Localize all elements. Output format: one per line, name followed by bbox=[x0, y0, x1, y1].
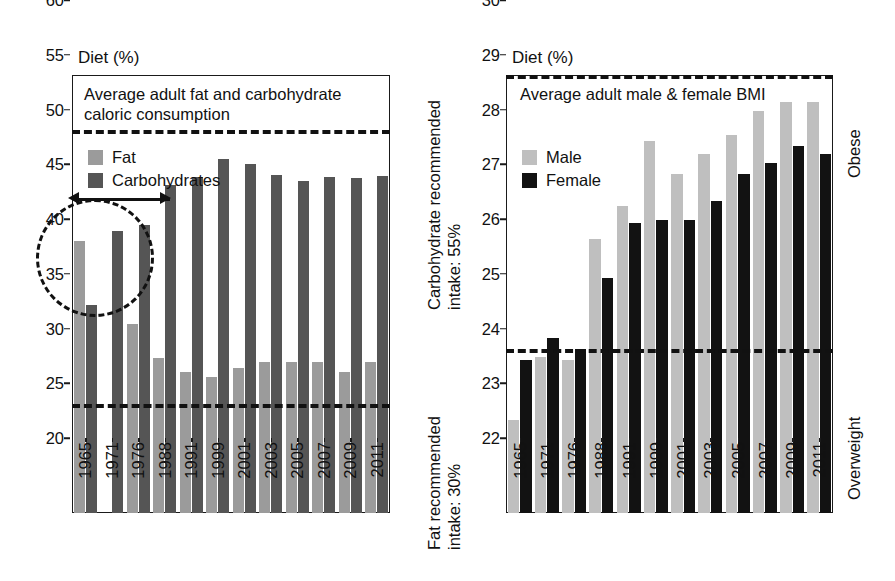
x-tick-mark bbox=[792, 438, 794, 442]
y-tick-mark bbox=[64, 54, 70, 56]
x-tick-label: 1988 bbox=[156, 442, 175, 479]
y-tick-label: 55 bbox=[46, 47, 64, 64]
legend-item-male: Male bbox=[522, 147, 601, 168]
x-tick-label: 1988 bbox=[592, 442, 611, 479]
x-tick-label: 1971 bbox=[538, 442, 557, 479]
y-tick-label: 50 bbox=[46, 101, 64, 118]
legend-item-carbohydrates: Carbohydrates bbox=[88, 170, 220, 191]
x-tick-mark bbox=[765, 438, 767, 442]
x-tick-label: 1971 bbox=[103, 442, 122, 479]
legend-label-carbohydrates: Carbohydrates bbox=[112, 172, 220, 189]
y-tick-label: 22 bbox=[482, 430, 500, 447]
y-tick-mark bbox=[64, 109, 70, 111]
legend-label-male: Male bbox=[546, 149, 582, 166]
x-tick-mark bbox=[218, 438, 220, 442]
x-tick-mark bbox=[191, 438, 193, 442]
x-tick-label: 2005 bbox=[288, 442, 307, 479]
left-axis-caption: Diet (%) bbox=[78, 48, 139, 68]
left-title-line1: Average adult fat and carbohydrate bbox=[84, 85, 341, 103]
two-panel-bar-chart-figure: Diet (%) 202530354045505560 Average adul… bbox=[0, 0, 895, 581]
fat-recommended-intake-label: Fat recommended intake: 30% bbox=[425, 400, 465, 550]
x-tick-label: 1965 bbox=[76, 442, 95, 479]
y-tick-mark bbox=[64, 0, 70, 1]
x-tick-label: 1976 bbox=[565, 442, 584, 479]
x-tick-label: 2007 bbox=[315, 442, 334, 479]
y-tick-label: 25 bbox=[482, 266, 500, 283]
x-tick-mark bbox=[656, 438, 658, 442]
x-tick-label: 2001 bbox=[674, 442, 693, 479]
y-tick-label: 30 bbox=[482, 0, 500, 8]
y-tick-label: 20 bbox=[46, 430, 64, 447]
y-tick-label: 27 bbox=[482, 156, 500, 173]
fat-recommended-refline bbox=[72, 404, 390, 408]
y-tick-label: 25 bbox=[46, 375, 64, 392]
x-tick-mark bbox=[629, 438, 631, 442]
y-tick-label: 26 bbox=[482, 211, 500, 228]
y-tick-mark bbox=[64, 437, 70, 439]
x-tick-mark bbox=[244, 438, 246, 442]
obese-refline bbox=[506, 75, 833, 79]
y-tick-label: 29 bbox=[482, 47, 500, 64]
overweight-refline bbox=[506, 349, 833, 353]
x-tick-mark bbox=[520, 438, 522, 442]
right-axis-caption: Diet (%) bbox=[512, 48, 573, 68]
span-arrow-head-left bbox=[68, 192, 79, 204]
x-tick-mark bbox=[574, 438, 576, 442]
x-tick-mark bbox=[547, 438, 549, 442]
x-tick-mark bbox=[738, 438, 740, 442]
left-legend: Fat Carbohydrates bbox=[88, 147, 220, 193]
right-x-axis-labels: 1965197119761988199119992001200320052007… bbox=[506, 442, 833, 512]
x-tick-mark bbox=[271, 438, 273, 442]
carb-recommended-refline bbox=[72, 130, 390, 134]
x-tick-mark bbox=[324, 438, 326, 442]
x-tick-label: 1965 bbox=[511, 442, 530, 479]
male-color-swatch bbox=[522, 150, 537, 165]
x-tick-label: 1999 bbox=[647, 442, 666, 479]
x-tick-label: 2005 bbox=[729, 442, 748, 479]
y-tick-label: 23 bbox=[482, 375, 500, 392]
x-tick-mark bbox=[112, 438, 114, 442]
x-tick-label: 2011 bbox=[368, 442, 387, 477]
x-tick-mark bbox=[165, 438, 167, 442]
x-tick-label: 2003 bbox=[701, 442, 720, 479]
left-title-line2: caloric consumption bbox=[84, 105, 230, 123]
y-tick-label: 45 bbox=[46, 156, 64, 173]
x-tick-mark bbox=[350, 438, 352, 442]
legend-item-fat: Fat bbox=[88, 147, 220, 168]
y-tick-mark bbox=[500, 54, 506, 56]
x-tick-mark bbox=[377, 438, 379, 442]
x-tick-mark bbox=[710, 438, 712, 442]
y-tick-mark bbox=[64, 328, 70, 330]
x-tick-label: 2009 bbox=[341, 442, 360, 479]
x-tick-label: 2003 bbox=[262, 442, 281, 479]
y-tick-label: 60 bbox=[46, 0, 64, 8]
legend-label-fat: Fat bbox=[112, 149, 136, 166]
carb-recommended-intake-label: Carbohydrate recommended intake: 55% bbox=[425, 60, 465, 310]
x-tick-mark bbox=[85, 438, 87, 442]
highlight-circle-annotation bbox=[36, 199, 154, 317]
y-tick-label: 28 bbox=[482, 101, 500, 118]
y-tick-label: 30 bbox=[46, 320, 64, 337]
y-tick-mark bbox=[500, 0, 506, 1]
legend-item-female: Female bbox=[522, 170, 601, 191]
female-color-swatch bbox=[522, 173, 537, 188]
carbohydrates-color-swatch bbox=[88, 173, 103, 188]
right-legend: Male Female bbox=[522, 147, 601, 193]
y-tick-mark bbox=[64, 383, 70, 385]
right-plot-title: Average adult male & female BMI bbox=[520, 84, 766, 104]
x-tick-mark bbox=[297, 438, 299, 442]
left-plot-title: Average adult fat and carbohydratecalori… bbox=[84, 84, 341, 124]
x-tick-mark bbox=[683, 438, 685, 442]
overweight-label: Overweight bbox=[845, 330, 865, 500]
x-tick-label: 2011 bbox=[810, 442, 829, 477]
x-tick-label: 2009 bbox=[783, 442, 802, 479]
legend-label-female: Female bbox=[546, 172, 601, 189]
span-arrow-line bbox=[78, 198, 170, 201]
y-tick-mark bbox=[64, 164, 70, 166]
obese-label: Obese bbox=[845, 58, 865, 178]
x-tick-label: 2007 bbox=[756, 442, 775, 479]
x-tick-label: 1991 bbox=[182, 442, 201, 479]
x-tick-label: 1999 bbox=[209, 442, 228, 479]
x-tick-label: 1976 bbox=[129, 442, 148, 479]
x-tick-label: 1991 bbox=[620, 442, 639, 479]
